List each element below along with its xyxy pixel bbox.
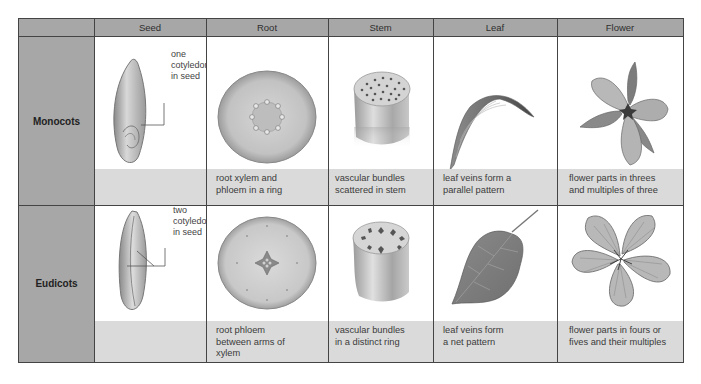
- caption-line: and multiples of three: [569, 185, 683, 197]
- caption-line: leaf veins form a: [443, 173, 557, 185]
- monocot-seed-annotation: one cotyledon in seed: [171, 49, 206, 82]
- column-header-stem: Stem: [328, 19, 433, 37]
- caption-line: in a distinct ring: [335, 337, 433, 349]
- caption-line: root xylem and: [216, 173, 328, 185]
- monocot-eudicot-comparison-table: Seed Root Stem Leaf Flower Monocots Eudi…: [18, 18, 684, 363]
- caption-monocot-stem: vascular bundles scattered in stem: [328, 169, 433, 205]
- header-corner: [19, 19, 94, 37]
- caption-line: scattered in stem: [335, 185, 433, 197]
- eudicot-root-cell: [207, 206, 328, 321]
- caption-monocot-seed: [94, 169, 206, 205]
- monocot-leaf-cell: [434, 37, 557, 169]
- row-label-monocots: Monocots: [19, 37, 94, 205]
- annotation-line: cotyledons: [173, 216, 206, 227]
- column-header-root: Root: [206, 19, 328, 37]
- eudicot-stem-ring-bundles-icon: [329, 206, 433, 321]
- annotation-line: two: [173, 206, 206, 216]
- divider: [19, 205, 683, 206]
- caption-line: between arms of: [216, 337, 328, 349]
- caption-line: phloem in a ring: [216, 185, 328, 197]
- monocot-stem-scattered-bundles-icon: [329, 37, 433, 169]
- caption-eudicot-leaf: leaf veins form a net pattern: [433, 321, 557, 362]
- divider: [206, 19, 207, 362]
- eudicot-root-cross-section-icon: [207, 206, 328, 321]
- caption-line: flower parts in fours or: [569, 325, 683, 337]
- caption-line: parallel pattern: [443, 185, 557, 197]
- caption-line: root phloem: [216, 325, 328, 337]
- net-vein-leaf-icon: [434, 206, 557, 321]
- parallel-vein-leaf-icon: [434, 37, 557, 169]
- caption-line: leaf veins form: [443, 325, 557, 337]
- monocot-stem-cell: [329, 37, 433, 169]
- caption-eudicot-flower: flower parts in fours or fives and their…: [557, 321, 683, 362]
- caption-line: fives and their multiples: [569, 337, 683, 349]
- caption-eudicot-stem: vascular bundles in a distinct ring: [328, 321, 433, 362]
- monocot-flower-cell: [558, 37, 683, 169]
- row-label-eudicots: Eudicots: [19, 205, 94, 362]
- caption-monocot-flower: flower parts in threes and multiples of …: [557, 169, 683, 205]
- monocot-root-cell: [207, 37, 328, 169]
- caption-line: vascular bundles: [335, 173, 433, 185]
- caption-eudicot-root: root phloem between arms of xylem: [206, 321, 328, 362]
- column-header-leaf: Leaf: [433, 19, 557, 37]
- monocot-seed-cell: one cotyledon in seed: [95, 37, 206, 169]
- caption-line: flower parts in threes: [569, 173, 683, 185]
- annotation-line: in seed: [171, 71, 206, 82]
- eudicot-stem-cell: [329, 206, 433, 321]
- divider: [328, 19, 329, 362]
- annotation-line: cotyledon: [171, 60, 206, 71]
- divider: [433, 19, 434, 362]
- eudicot-flower-cell: [558, 206, 683, 321]
- eudicot-seed-annotation: two cotyledons in seed: [173, 206, 206, 238]
- three-petal-flower-icon: [558, 37, 683, 169]
- caption-monocot-leaf: leaf veins form a parallel pattern: [433, 169, 557, 205]
- eudicot-leaf-cell: [434, 206, 557, 321]
- caption-line: vascular bundles: [335, 325, 433, 337]
- annotation-line: in seed: [173, 227, 206, 238]
- column-header-flower: Flower: [557, 19, 683, 37]
- eudicot-seed-cell: two cotyledons in seed: [95, 206, 206, 321]
- annotation-line: one: [171, 49, 206, 60]
- caption-eudicot-seed: [94, 321, 206, 362]
- column-header-seed: Seed: [94, 19, 206, 37]
- caption-monocot-root: root xylem and phloem in a ring: [206, 169, 328, 205]
- caption-line: a net pattern: [443, 337, 557, 349]
- five-petal-flower-icon: [558, 206, 683, 321]
- divider: [94, 19, 95, 362]
- caption-line: xylem: [216, 348, 328, 360]
- monocot-root-cross-section-icon: [207, 37, 328, 169]
- divider: [557, 19, 558, 362]
